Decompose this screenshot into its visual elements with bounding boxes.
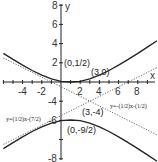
asymptote-label: y=(1/2)x-(7/2)	[6, 116, 41, 123]
point-label: (0,-9/2)	[67, 125, 96, 135]
x-tick-label: -4	[18, 86, 27, 97]
point-label: (0,1/2)	[64, 58, 90, 68]
point-label: (3,-4)	[82, 107, 104, 117]
point-label: (3,0)	[91, 67, 110, 77]
y-tick-label: 6	[52, 19, 58, 30]
y-tick-label: -8	[48, 153, 57, 162]
y-tick-label: 8	[52, 0, 58, 11]
x-tick-label: 2	[77, 86, 83, 97]
x-tick-label: 4	[96, 86, 102, 97]
x-axis-label: x	[150, 70, 155, 81]
y-axis-label: y	[65, 1, 70, 12]
y-tick-label: -4	[48, 96, 57, 107]
asymptote-label: y=-(1/2)x-(1/2)	[110, 103, 147, 110]
hyperbola-plot: -4 -2 2 4 6 8 8 6 4 2 -4 -6 -8 y x (0,1/…	[0, 0, 158, 162]
x-tick-label: -2	[37, 86, 46, 97]
x-tick-label: 6	[115, 86, 121, 97]
y-tick-label: 4	[52, 38, 58, 49]
x-tick-label: 8	[134, 86, 140, 97]
y-tick-label: 2	[52, 57, 58, 68]
